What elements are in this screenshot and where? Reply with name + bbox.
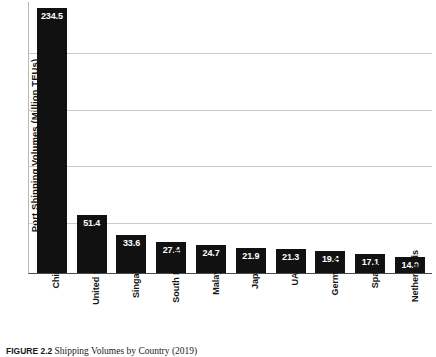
bar-slot: 19.4: [311, 2, 351, 273]
x-axis-label-slot: South Korea: [151, 276, 191, 344]
bar-value-label: 33.6: [123, 235, 140, 248]
x-axis-label-slot: United States: [71, 276, 111, 344]
bar-slot: 51.4: [72, 2, 112, 273]
x-axis-label-slot: Malaysia: [191, 276, 231, 344]
bar-slot: 33.6: [112, 2, 152, 273]
bar-value-label: 21.3: [282, 249, 299, 262]
x-axis-category-labels: ChinaUnited StatesSingaporeSouth KoreaMa…: [28, 276, 432, 344]
x-axis-label: South Korea: [171, 249, 181, 303]
plot-area: 234.551.433.627.424.721.921.319.417.114.…: [28, 2, 432, 274]
x-axis-label-slot: Japan: [231, 276, 271, 344]
bar-value-label: 21.9: [242, 248, 259, 261]
bar[interactable]: 234.5: [37, 8, 67, 273]
bar-value-label: 234.5: [41, 8, 63, 21]
x-axis-label-slot: China: [31, 276, 71, 344]
x-axis-label: United States: [91, 247, 101, 305]
figure-caption-text: Shipping Volumes by Country (2019): [55, 346, 198, 356]
x-axis-label: Japan: [250, 263, 260, 289]
figure-container: Port Shipping Volumes (Million TEUs) 234…: [0, 0, 436, 357]
x-axis-label-slot: Netherlands: [390, 276, 430, 344]
bar-slot: 234.5: [32, 2, 72, 273]
x-axis-label-slot: Spain: [350, 276, 390, 344]
bar-slot: 17.1: [350, 2, 390, 273]
bar-slot: 24.7: [191, 2, 231, 273]
x-axis-label: Singapore: [131, 254, 141, 298]
x-axis-label: Germany: [330, 256, 340, 295]
bar-value-label: 51.4: [83, 215, 100, 228]
bar-slot: 21.3: [271, 2, 311, 273]
bar-slot: 21.9: [231, 2, 271, 273]
bar-slot: 14.0: [390, 2, 430, 273]
x-axis-label-slot: Germany: [310, 276, 350, 344]
x-axis-label-slot: UAE: [270, 276, 310, 344]
x-axis-label: Malaysia: [211, 257, 221, 295]
figure-caption-label: FIGURE 2.2: [6, 346, 52, 356]
bar-slot: 27.4: [151, 2, 191, 273]
figure-caption: FIGURE 2.2 Shipping Volumes by Country (…: [6, 346, 436, 356]
bar-series: 234.551.433.627.424.721.921.319.417.114.…: [29, 2, 432, 273]
x-axis-label: Netherlands: [410, 250, 420, 302]
x-axis-label: China: [51, 263, 61, 288]
x-axis-label: Spain: [370, 264, 380, 289]
x-axis-label-slot: Singapore: [111, 276, 151, 344]
x-axis-label: UAE: [290, 266, 300, 285]
